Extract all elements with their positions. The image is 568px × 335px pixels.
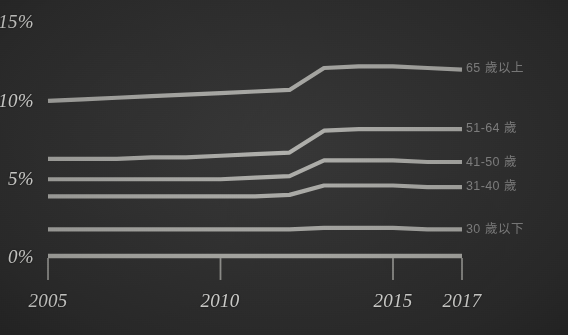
series-label-30-under: 30 歲以下: [466, 223, 525, 236]
series-line-1: [48, 66, 462, 100]
series-line-2: [48, 129, 462, 159]
series-label-51-64: 51-64 歲: [466, 122, 517, 135]
x-axis-ticks: [48, 258, 462, 280]
x-axis-label-2010: 2010: [200, 291, 239, 310]
series-line-3: [48, 160, 462, 179]
series-line-5: [48, 228, 462, 230]
series-label-65-plus: 65 歲以上: [466, 62, 525, 75]
x-axis-label-2017: 2017: [442, 291, 481, 310]
series-label-31-40: 31-40 歲: [466, 180, 517, 193]
x-axis-label-2015: 2015: [373, 291, 412, 310]
x-axis-label-2005: 2005: [28, 291, 67, 310]
chart-canvas: 15% 10% 5% 0% 65 歲以上 51-64 歲 41-50 歲 31-…: [0, 0, 568, 335]
series-label-41-50: 41-50 歲: [466, 156, 517, 169]
series-line-4: [48, 186, 462, 197]
